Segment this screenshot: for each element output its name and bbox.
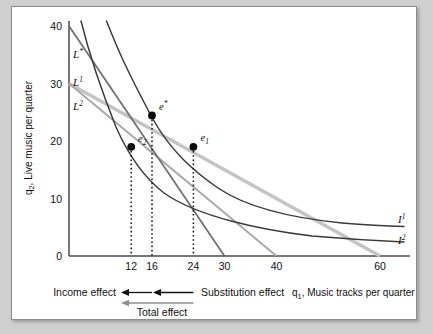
point-e2-sub: 2	[143, 138, 147, 147]
y-tick-10: 10	[50, 193, 62, 205]
point-label-e-star: e*	[159, 99, 168, 112]
y-axis-title: q2, Live music per quarter	[23, 80, 36, 195]
point-labels: e2 e* e1	[138, 99, 209, 147]
budget-label-L1: L1	[72, 75, 83, 88]
point-e-star-marker[interactable]	[148, 112, 156, 120]
L2-sup: 2	[79, 99, 83, 108]
point-e1-marker[interactable]	[190, 143, 198, 151]
equilibrium-points	[127, 112, 197, 151]
income-effect-label: Income effect	[53, 286, 116, 298]
point-e1-sub: 1	[205, 137, 209, 146]
y-tick-20: 20	[50, 135, 62, 147]
x-tick-60: 60	[374, 260, 386, 272]
total-effect-arrow-head	[121, 300, 129, 306]
y-axis-title-rest: , Live music per quarter	[23, 80, 34, 185]
y-tick-0: 0	[56, 250, 62, 262]
y-tick-30: 30	[50, 78, 62, 90]
curve-label-I1: I1	[397, 212, 405, 225]
budget-line-L1	[69, 84, 277, 257]
budget-line-labels: L* L1 L2	[72, 47, 83, 112]
substitution-effect-arrow-head	[153, 289, 161, 296]
I1-sup: 1	[402, 212, 406, 221]
curve-label-I2: I2	[397, 233, 406, 246]
indifference-curve-I1	[107, 21, 405, 227]
substitution-effect-label: Substitution effect	[201, 286, 284, 298]
economics-substitution-income-chart: 40 30 20 10 0 q2, Live music per quarter	[12, 7, 416, 319]
x-tick-40: 40	[271, 260, 283, 272]
indifference-curve-I2	[81, 21, 404, 242]
L1-base: L	[72, 76, 79, 88]
L-star-sup: *	[79, 47, 83, 56]
L2-base: L	[72, 100, 79, 112]
budget-label-L-star: L*	[72, 47, 83, 60]
x-tick-30: 30	[219, 260, 231, 272]
point-label-e2: e2	[138, 133, 147, 147]
point-estar-sup: *	[164, 99, 168, 108]
y-tick-40: 40	[50, 20, 62, 32]
axes	[69, 21, 410, 256]
x-tick-16: 16	[146, 260, 158, 272]
I2-sup: 2	[402, 233, 406, 242]
figure-frame: 40 30 20 10 0 q2, Live music per quarter	[11, 6, 417, 320]
x-axis-title: q1, Music tracks per quarter	[292, 287, 415, 301]
x-axis-title-rest: , Music tracks per quarter	[302, 287, 415, 298]
y-axis-tick-labels: 40 30 20 10 0	[50, 20, 62, 262]
income-effect-arrow-head	[121, 289, 129, 296]
chart-plot-area: 40 30 20 10 0 q2, Live music per quarter	[12, 7, 416, 319]
svg-text:q2, Live music per quarter: q2, Live music per quarter	[23, 80, 36, 195]
indifference-curve-labels: I1 I2	[397, 212, 406, 246]
budget-line-L2	[69, 84, 380, 257]
effect-annotations: Income effect Substitution effect	[53, 286, 284, 318]
point-label-e1: e1	[201, 132, 209, 146]
income-effect-arrow	[121, 289, 152, 296]
x-axis-tick-labels: 12 16 24 30 40 60	[125, 260, 386, 272]
x-tick-12: 12	[125, 260, 137, 272]
x-tick-24: 24	[188, 260, 200, 272]
screenshot-root: 40 30 20 10 0 q2, Live music per quarter	[0, 0, 433, 334]
point-e2-marker[interactable]	[127, 143, 135, 151]
budget-label-L2: L2	[72, 99, 83, 112]
L1-sup: 1	[79, 75, 83, 84]
total-effect-label: Total effect	[137, 306, 188, 318]
substitution-effect-arrow	[153, 289, 193, 296]
L-star-base: L	[72, 48, 79, 60]
